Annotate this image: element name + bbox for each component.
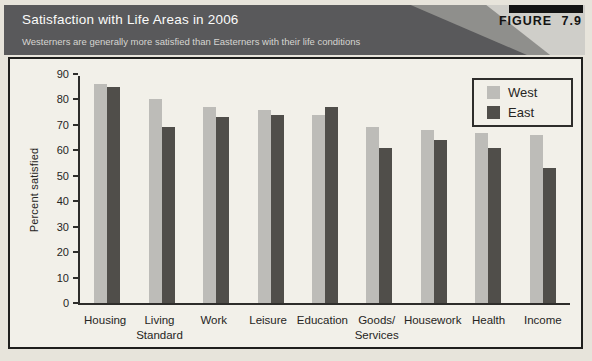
figure-badge-bar [509,5,583,13]
y-tick-mark [73,73,78,75]
y-tick-70: 70 [42,119,78,131]
bar-west-housing [94,84,107,303]
x-label-education: Education [295,313,349,343]
bar-group-work [189,76,243,303]
figure-header: FIGURE 7.9 Satisfaction with Life Areas … [4,5,585,55]
y-tick-label: 90 [57,68,69,80]
x-label-housing: Housing [78,313,132,343]
bar-group-living [134,76,188,303]
chart-subtitle: Westerners are generally more satisfied … [22,36,360,47]
bar-east-income [543,168,556,303]
y-tick-label: 70 [57,119,69,131]
bar-west-leisure [258,110,271,303]
bar-east-work [216,117,229,303]
bar-east-goods [379,148,392,303]
y-tick-mark [73,175,78,177]
y-tick-label: 20 [57,246,69,258]
y-tick-mark [73,98,78,100]
y-tick-mark [73,302,78,304]
y-tick-label: 80 [57,93,69,105]
y-tick-mark [73,226,78,228]
x-label-work: Work [187,313,241,343]
bar-east-education [325,107,338,303]
y-tick-30: 30 [42,221,78,233]
y-tick-0: 0 [42,297,78,309]
y-tick-mark [73,251,78,253]
y-tick-label: 60 [57,144,69,156]
bar-group-education [298,76,352,303]
legend-label-east: East [508,105,534,120]
y-tick-mark [73,149,78,151]
y-tick-mark [73,124,78,126]
y-axis-label: Percent satisfied [28,115,42,265]
chart-title: Satisfaction with Life Areas in 2006 [22,12,239,27]
chart-panel: Percent satisfied 0102030405060708090 Ho… [8,57,583,349]
y-tick-label: 30 [57,221,69,233]
bar-west-income [530,135,543,303]
legend: WestEast [472,78,573,127]
bar-east-living [162,127,175,303]
bar-group-housework [407,76,461,303]
bar-east-health [488,148,501,303]
y-tick-90: 90 [42,68,78,80]
bar-group-leisure [243,76,297,303]
bar-west-health [475,133,488,304]
bar-west-goods [366,127,379,303]
y-tick-80: 80 [42,93,78,105]
bar-west-housework [421,130,434,303]
x-label-health: Health [461,313,515,343]
legend-swatch-west [487,86,500,99]
y-tick-20: 20 [42,246,78,258]
x-label-housework: Housework [404,313,462,343]
x-label-goods: Goods/ Services [350,313,404,343]
x-label-living: Living Standard [132,313,186,343]
y-tick-label: 10 [57,272,69,284]
legend-item-east: East [487,105,571,120]
y-tick-50: 50 [42,170,78,182]
bar-west-education [312,115,325,303]
y-tick-label: 40 [57,195,69,207]
x-label-leisure: Leisure [241,313,295,343]
bar-east-housework [434,140,447,303]
bar-west-living [149,99,162,303]
bar-east-housing [107,87,120,303]
y-tick-mark [73,200,78,202]
bar-group-housing [80,76,134,303]
legend-item-west: West [487,85,571,100]
y-tick-mark [73,277,78,279]
y-tick-10: 10 [42,272,78,284]
y-tick-label: 0 [63,297,69,309]
y-tick-60: 60 [42,144,78,156]
x-axis-labels: HousingLiving StandardWorkLeisureEducati… [78,313,570,343]
y-tick-40: 40 [42,195,78,207]
bar-group-goods [352,76,406,303]
figure-number: FIGURE 7.9 [499,14,582,28]
figure-page: FIGURE 7.9 Satisfaction with Life Areas … [0,0,592,361]
bar-west-work [203,107,216,303]
bar-east-leisure [271,115,284,303]
y-tick-label: 50 [57,170,69,182]
legend-swatch-east [487,106,500,119]
x-label-income: Income [516,313,570,343]
legend-label-west: West [508,85,537,100]
